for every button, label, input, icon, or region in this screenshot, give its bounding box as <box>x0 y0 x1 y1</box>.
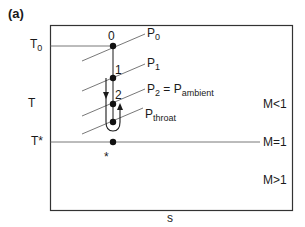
point-1-label: 1 <box>115 64 122 76</box>
isobar-p1-label: P1 <box>147 57 160 72</box>
tstar-label: T* <box>31 135 43 147</box>
state-point-throat <box>110 119 116 125</box>
panel-label: (a) <box>8 7 24 20</box>
sonic-label: M=1 <box>263 136 287 148</box>
state-point-star <box>110 139 116 145</box>
up-arrow-icon <box>117 103 123 110</box>
x-axis-label: s <box>167 212 173 224</box>
subsonic-label: M<1 <box>263 98 287 110</box>
supersonic-label: M>1 <box>263 174 287 186</box>
y-axis-label: T <box>28 97 35 109</box>
down-arrow-icon <box>103 92 109 99</box>
isobar-p2-label: P2 = Pambient <box>147 83 214 98</box>
state-point-0 <box>110 43 116 49</box>
isobar-throat-label: Pthroat <box>145 108 176 123</box>
isobar-p0-label: P0 <box>147 27 160 42</box>
point-2-label: 2 <box>115 89 122 101</box>
point-star-label: * <box>104 151 109 163</box>
point-0-label: 0 <box>108 30 115 42</box>
t0-label: T0 <box>30 38 42 53</box>
